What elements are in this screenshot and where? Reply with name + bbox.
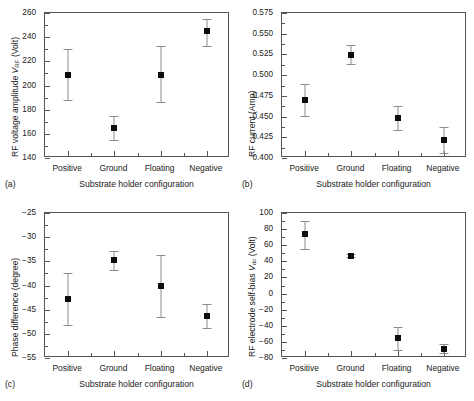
y-axis-tick-label: 180	[22, 106, 36, 114]
y-axis-tick-label: 0.525	[253, 50, 274, 58]
y-axis-minor-tick	[282, 334, 285, 335]
y-axis-tick-label: −40	[22, 282, 36, 290]
y-axis-tick-label: −45	[22, 306, 36, 314]
plot-frame: 0.4000.4250.4500.4750.5000.5250.5500.575	[281, 12, 466, 157]
y-axis-tick-label: 0	[268, 290, 273, 298]
y-axis-tick	[282, 54, 287, 55]
y-axis-minor-tick	[45, 298, 48, 299]
y-axis-tick	[282, 75, 287, 76]
error-bar-cap-lower	[393, 130, 402, 131]
x-axis-tick	[398, 351, 399, 356]
y-axis-minor-tick	[45, 322, 48, 323]
data-point-marker	[441, 346, 447, 352]
y-axis-tick	[45, 13, 50, 14]
data-point-marker	[111, 125, 117, 131]
panel-letter-c: (c)	[5, 379, 15, 389]
y-axis-tick-label: 160	[22, 130, 36, 138]
error-bar-cap-upper	[202, 304, 211, 305]
data-point-marker	[302, 231, 308, 237]
y-axis-tick-label: 220	[22, 57, 36, 65]
y-axis-tick-label: 200	[22, 82, 36, 90]
y-axis-tick	[45, 261, 50, 262]
y-axis-tick	[282, 117, 287, 118]
y-axis-tick-label: 240	[22, 33, 36, 41]
y-axis-minor-tick	[45, 225, 48, 226]
y-axis-minor-tick	[282, 86, 285, 87]
x-axis-category-label-negative: Negative	[426, 163, 459, 173]
error-bar-cap-lower	[64, 325, 73, 326]
plot-frame: −55−50−45−40−35−30−25	[44, 212, 229, 357]
y-axis-tick	[282, 245, 287, 246]
y-axis-title: Phase difference (degree)	[10, 258, 20, 357]
y-axis-minor-tick	[282, 302, 285, 303]
y-axis-tick	[45, 134, 50, 135]
data-point-marker	[204, 313, 210, 319]
data-point-marker	[441, 137, 447, 143]
x-axis-minor-tick	[138, 353, 139, 356]
error-bar-cap-lower	[202, 328, 211, 329]
panel-a: 140160180200220240260PositiveGroundFloat…	[0, 0, 237, 200]
x-axis-category-label-floating: Floating	[382, 363, 412, 373]
y-axis-tick-label: 20	[264, 273, 273, 281]
x-axis-category-label-floating: Floating	[145, 363, 175, 373]
x-axis-tick	[161, 151, 162, 156]
x-axis-category-label-ground: Ground	[99, 163, 127, 173]
x-axis-minor-tick	[328, 353, 329, 356]
x-axis-category-label-ground: Ground	[336, 163, 364, 173]
panel-letter-b: (b)	[242, 179, 253, 189]
y-axis-tick	[282, 326, 287, 327]
plot-frame: −80−60−40−20020406080100	[281, 212, 466, 357]
x-axis-tick	[114, 351, 115, 356]
panel-letter-a: (a)	[5, 179, 16, 189]
y-axis-minor-tick	[45, 25, 48, 26]
error-bar-cap-upper	[156, 255, 165, 256]
data-point-marker	[302, 97, 308, 103]
panel-d: −80−60−40−20020406080100PositiveGroundFl…	[237, 200, 474, 400]
error-bar-cap-lower	[439, 353, 448, 354]
x-axis-category-label-positive: Positive	[52, 163, 81, 173]
x-axis-minor-tick	[375, 153, 376, 156]
error-bar-cap-lower	[301, 116, 310, 117]
x-axis-category-label-floating: Floating	[145, 163, 175, 173]
x-axis-tick	[161, 351, 162, 356]
data-point-marker	[395, 115, 401, 121]
y-axis-tick-label: 60	[264, 241, 273, 249]
y-axis-tick	[45, 286, 50, 287]
x-axis-category-label-positive: Positive	[289, 163, 318, 173]
y-axis-tick-label: 0.500	[253, 71, 274, 79]
y-axis-tick	[282, 342, 287, 343]
y-axis-minor-tick	[45, 122, 48, 123]
y-axis-minor-tick	[282, 253, 285, 254]
y-axis-minor-tick	[282, 44, 285, 45]
error-bar-cap-lower	[110, 140, 119, 141]
y-axis-tick	[282, 277, 287, 278]
y-axis-tick	[282, 158, 287, 159]
x-axis-category-label-negative: Negative	[189, 363, 222, 373]
error-bar-cap-upper	[110, 251, 119, 252]
y-axis-tick	[282, 229, 287, 230]
data-point-marker	[158, 283, 164, 289]
x-axis-category-label-floating: Floating	[382, 163, 412, 173]
error-bar-cap-upper	[202, 19, 211, 20]
x-axis-tick	[398, 151, 399, 156]
y-axis-minor-tick	[282, 318, 285, 319]
y-axis-tick-label: 100	[259, 209, 273, 217]
error-bar-cap-upper	[301, 84, 310, 85]
y-axis-tick	[282, 310, 287, 311]
x-axis-category-label-ground: Ground	[336, 363, 364, 373]
x-axis-category-label-negative: Negative	[426, 363, 459, 373]
y-axis-tick	[282, 294, 287, 295]
y-axis-minor-tick	[45, 249, 48, 250]
y-axis-tick	[45, 213, 50, 214]
x-axis-category-label-ground: Ground	[99, 363, 127, 373]
y-axis-title: RF voltage amplitude VRF (Volt)	[10, 37, 20, 157]
y-axis-minor-tick	[45, 346, 48, 347]
y-axis-tick-label: 80	[264, 225, 273, 233]
y-axis-tick	[282, 261, 287, 262]
error-bar-cap-upper	[347, 45, 356, 46]
x-axis-minor-tick	[91, 153, 92, 156]
data-point-marker	[204, 28, 210, 34]
y-axis-tick	[282, 358, 287, 359]
y-axis-tick	[45, 334, 50, 335]
error-bar-cap-lower	[202, 46, 211, 47]
